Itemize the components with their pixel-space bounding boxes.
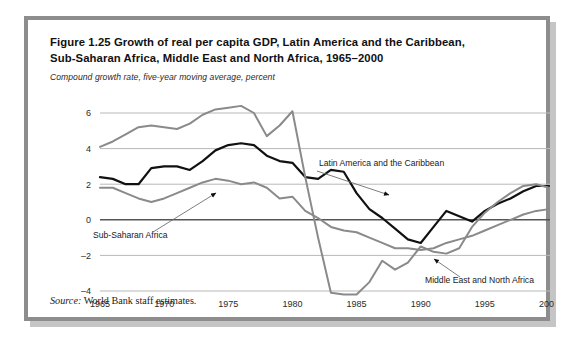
annotations-group: Latin America and the CaribbeanSub-Sahar… [93,158,534,285]
annotation-label-sub-saharan-africa: Sub-Saharan Africa [93,230,168,240]
y-tick-label-2: 2 [86,180,91,190]
x-tick-label-1980: 1980 [282,299,302,309]
x-tick-label-1990: 1990 [411,299,431,309]
source-label: Source: [50,295,81,306]
x-tick-label-1975: 1975 [218,299,238,309]
y-tick-label-6: 6 [86,108,91,118]
x-tick-label-1995: 1995 [475,299,495,309]
series-line-middle-east-and-north-africa [100,106,549,295]
source-note: Source: World Bank staff estimates. [50,295,196,306]
x-tick-label-2000: 2000 [539,299,554,309]
annotation-label-latin-america-and-the-caribbean: Latin America and the Caribbean [319,158,444,168]
y-tick-label-0: 0 [86,215,91,225]
figure-inner: Figure 1.25 Growth of real per capita GD… [28,20,546,317]
y-tick-label--2: –2 [81,251,91,261]
y-axis-tick-labels: –4–20246 [81,108,91,296]
source-text: World Bank staff estimates. [81,295,196,306]
data-series-group [100,106,549,295]
y-tick-label-4: 4 [86,144,91,154]
figure-frame: Figure 1.25 Growth of real per capita GD… [24,16,550,321]
annotation-arrow-latin-america-and-the-caribbean [317,171,389,195]
x-tick-label-1985: 1985 [347,299,367,309]
chart-plot-area: –4–20246 1965197019751980198519901995200… [28,20,554,325]
annotation-label-middle-east-and-north-africa: Middle East and North Africa [425,275,534,285]
